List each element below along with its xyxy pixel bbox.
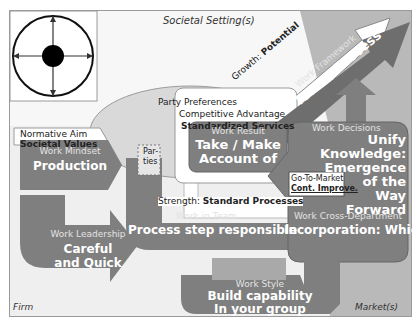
markets-label: Market(s) — [355, 303, 398, 312]
work-cross-department-value: Incorporation: Which — [284, 224, 417, 236]
parties-label-1: Par- — [143, 148, 158, 156]
strength-prefix: Strength: — [158, 196, 203, 206]
party-preferences-label: Party Preferences — [158, 98, 237, 107]
societal-setting-label: Societal Setting(s) — [163, 16, 255, 26]
parties-label-2: ties — [143, 158, 157, 166]
work-decisions-line-2: Knowledge: — [320, 147, 406, 160]
work-leadership-line-1: Careful — [48, 243, 128, 255]
work-result-line-1: Take / Make — [189, 138, 287, 151]
work-in-team-value: Process step responsible — [128, 224, 297, 236]
work-result-line-2: Account of — [189, 152, 287, 165]
work-in-team-title: Work in Team — [176, 212, 237, 221]
work-leadership-title: Work Leadership — [48, 230, 128, 239]
work-mindset-value: Production — [24, 160, 116, 172]
go-to-market-value: Cont. Improve. — [291, 185, 358, 193]
work-style-line-1: Build capability — [200, 290, 320, 302]
competitive-advantage-title: Competitive Advantage — [179, 110, 285, 119]
work-result-title: Work Result — [189, 127, 287, 136]
work-decisions-line-3: Emergence — [320, 161, 406, 174]
work-mindset-title: Work Mindset — [32, 147, 108, 156]
work-decisions-line-1: Unify — [340, 133, 406, 146]
work-cross-department-title: Work Cross-Department — [288, 212, 408, 221]
work-style-inner — [212, 258, 286, 280]
work-leadership-line-2: and Quick — [48, 257, 128, 269]
go-to-market-title: Go-To-Market — [291, 175, 343, 183]
strength-value: Standard Processes — [203, 196, 304, 206]
compass-crosshair-icon — [13, 16, 93, 96]
normative-aim-title: Normative Aim — [20, 130, 87, 139]
strength-label: Strength: Standard Processes — [158, 197, 303, 206]
work-style-title: Work Style — [220, 280, 300, 289]
work-style-line-2: In your group — [200, 303, 320, 315]
firm-label: Firm — [13, 303, 33, 312]
